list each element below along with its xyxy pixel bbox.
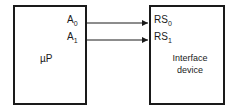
interface-label-line2: device — [155, 64, 225, 76]
interface-device-label: Interface device — [155, 52, 225, 76]
pin-a1-label: A1 — [67, 32, 78, 46]
pin-rs0-label: RS0 — [154, 15, 172, 29]
pin-rs1-label: RS1 — [154, 32, 172, 46]
pin-a0-label: A0 — [67, 15, 78, 29]
microprocessor-label: µP — [40, 54, 52, 64]
interface-label-line1: Interface — [155, 52, 225, 64]
